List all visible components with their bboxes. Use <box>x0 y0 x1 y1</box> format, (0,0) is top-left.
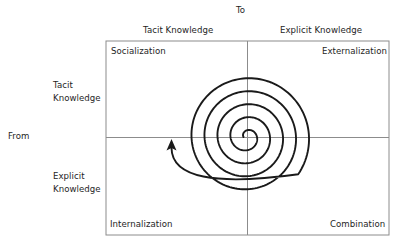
quadrant-externalization: Externalization <box>322 45 387 58</box>
quadrant-internalization: Internalization <box>110 218 173 231</box>
quadrant-combination: Combination <box>330 218 385 231</box>
knowledge-spiral <box>172 78 310 189</box>
seci-diagram-graphic <box>0 0 396 244</box>
quadrant-socialization: Socialization <box>111 45 166 58</box>
